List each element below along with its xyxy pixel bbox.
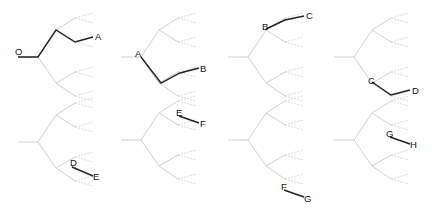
tree-graph: AB — [108, 0, 216, 107]
leaf-edge — [391, 174, 409, 179]
leaf-edge — [285, 174, 303, 179]
tree-edge — [56, 168, 75, 181]
leaf-edge — [75, 122, 93, 127]
tree-edge — [372, 18, 391, 30]
leaf-edge — [285, 179, 303, 184]
leaf-edge — [285, 150, 303, 155]
tree-edge — [248, 113, 266, 140]
node-label-f: F — [281, 181, 287, 192]
leaf-edge — [75, 42, 93, 47]
leaf-edge — [391, 37, 409, 42]
tree-edge — [56, 115, 75, 127]
leaf-edge — [391, 155, 409, 160]
tree-edge — [266, 83, 285, 96]
leaf-edge — [391, 67, 409, 72]
node-label-c: C — [368, 75, 375, 86]
leaf-edge — [178, 91, 196, 96]
leaf-edge — [178, 179, 196, 184]
tree-panel-5: DE — [0, 107, 108, 214]
leaf-edge — [178, 42, 196, 47]
leaf-edge — [75, 13, 93, 18]
tree-edge — [141, 30, 159, 57]
node-label-d: D — [412, 85, 419, 96]
tree-edge — [248, 57, 266, 83]
leaf-edge — [75, 72, 93, 77]
node-label-e: E — [93, 171, 99, 182]
node-label-d: D — [70, 157, 77, 168]
tree-edge — [159, 83, 178, 96]
tree-edge — [248, 30, 266, 57]
tree-edge — [372, 166, 391, 179]
tree-edge — [266, 166, 285, 179]
tree-edge — [56, 72, 75, 83]
leaf-edge — [75, 127, 93, 132]
tree-path-diagram: OAABBCCDDEEFFGGH — [0, 0, 433, 214]
tree-edge — [141, 113, 159, 140]
leaf-edge — [75, 152, 93, 157]
tree-edge — [354, 30, 372, 57]
leaf-edge — [178, 96, 196, 101]
leaf-edge — [391, 72, 409, 77]
leaf-edge — [178, 125, 196, 130]
tree-edge — [38, 142, 56, 168]
node-label-e: E — [176, 107, 182, 118]
leaf-edge — [391, 150, 409, 155]
leaf-edge — [391, 120, 409, 125]
tree-panel-3: BC — [216, 0, 324, 107]
leaf-edge — [178, 155, 196, 160]
leaf-edge — [391, 125, 409, 130]
tree-edge — [56, 83, 75, 96]
tree-edge — [248, 140, 266, 166]
leaf-edge — [285, 67, 303, 72]
tree-edge — [159, 166, 178, 179]
tree-graph: CD — [324, 0, 432, 107]
tree-edge — [266, 113, 285, 125]
tree-edge — [372, 155, 391, 166]
leaf-edge — [178, 18, 196, 23]
tree-edge — [159, 72, 178, 83]
tree-edge — [159, 155, 178, 166]
leaf-edge — [391, 18, 409, 23]
tree-edge — [159, 18, 178, 30]
tree-graph: FG — [216, 107, 324, 214]
node-label-b: B — [262, 21, 268, 32]
leaf-edge — [75, 157, 93, 162]
tree-edge — [141, 140, 159, 166]
tree-graph: DE — [0, 107, 108, 214]
leaf-edge — [285, 91, 303, 96]
tree-edge — [372, 113, 391, 125]
tree-panel-2: AB — [108, 0, 216, 107]
tree-edge — [159, 30, 178, 42]
node-label-h: H — [410, 139, 417, 150]
node-label-f: F — [200, 118, 206, 129]
tree-graph: BC — [216, 0, 324, 107]
tree-edge — [266, 72, 285, 83]
node-label-g: G — [386, 128, 393, 139]
leaf-edge — [285, 72, 303, 77]
highlighted-path — [372, 82, 410, 95]
node-label-b: B — [200, 63, 206, 74]
tree-graph: GH — [324, 107, 432, 214]
tree-edge — [56, 18, 75, 30]
node-label-a: A — [135, 48, 142, 59]
highlighted-path — [284, 190, 304, 197]
tree-graph: EF — [108, 107, 216, 214]
leaf-edge — [75, 67, 93, 72]
tree-panel-6: EF — [108, 107, 216, 214]
leaf-edge — [75, 18, 93, 23]
leaf-edge — [391, 13, 409, 18]
highlighted-path — [72, 167, 93, 176]
leaf-edge — [285, 125, 303, 130]
leaf-edge — [178, 150, 196, 155]
tree-graph: OA — [0, 0, 108, 107]
tree-panel-1: OA — [0, 0, 108, 107]
tree-edge — [354, 140, 372, 166]
leaf-edge — [285, 120, 303, 125]
leaf-edge — [75, 91, 93, 96]
leaf-edge — [75, 96, 93, 101]
node-label-g: G — [304, 193, 311, 204]
leaf-edge — [285, 37, 303, 42]
leaf-edge — [178, 37, 196, 42]
tree-edge — [38, 115, 56, 142]
node-label-a: A — [95, 31, 102, 42]
